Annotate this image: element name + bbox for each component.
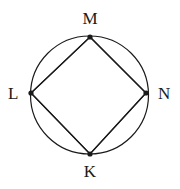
vertex-label-m: M [0, 10, 180, 27]
geometry-diagram [0, 0, 180, 189]
circumcircle [31, 36, 149, 154]
vertex-label-n: N [158, 85, 170, 102]
vertex-dot-L [28, 90, 33, 95]
vertex-dot-N [143, 90, 148, 95]
vertex-dot-K [87, 151, 92, 156]
geometry-figure: M N K L [0, 0, 180, 189]
vertex-dot-M [87, 34, 92, 39]
vertex-label-l: L [8, 85, 18, 102]
vertex-label-k: K [0, 163, 180, 180]
